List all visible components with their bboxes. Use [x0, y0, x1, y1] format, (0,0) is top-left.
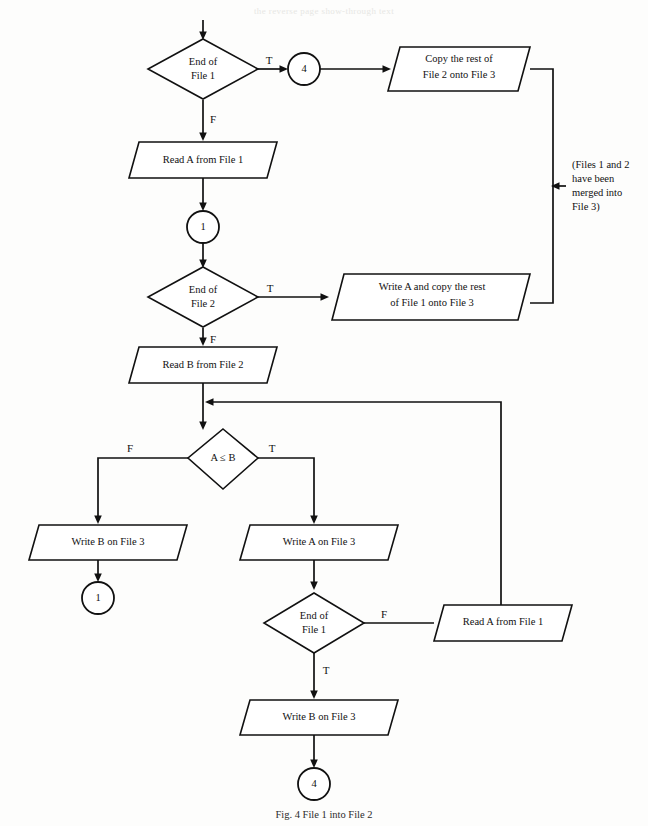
io-copy-rest-of-file-2[interactable]: Copy the rest of File 2 onto File 3 — [388, 47, 530, 91]
annotation-line2: have been — [572, 173, 615, 184]
annotation-files-merged: (Files 1 and 2 have been merged into Fil… — [572, 159, 629, 213]
annotation-line1: (Files 1 and 2 — [572, 159, 629, 171]
arrowhead-to-copy-rest — [383, 65, 392, 73]
io-write-a-copy-line2: of File 1 onto File 3 — [390, 297, 474, 308]
io-write-a-label: Write A on File 3 — [283, 536, 356, 547]
decision-end-of-file-1-top-line2: File 1 — [191, 70, 215, 81]
connector-1-bottom-label: 1 — [95, 592, 100, 603]
branch-label-end-file1-top-true: T — [266, 54, 273, 66]
branch-label-end-file2-false: F — [210, 333, 216, 345]
decision-end-of-file-2[interactable]: End of File 2 — [148, 267, 258, 327]
arrowhead-to-write-a-copy — [321, 293, 330, 301]
io-read-a-bottom-label: Read A from File 1 — [463, 616, 544, 627]
io-write-a-and-copy-rest[interactable]: Write A and copy the rest of File 1 onto… — [332, 274, 530, 320]
line-feedback-rail — [212, 402, 501, 605]
page-bleed-through: the reverse page show-through text — [254, 6, 394, 16]
io-read-b-label: Read B from File 2 — [162, 359, 243, 370]
annotation-line4: File 3) — [572, 201, 600, 213]
arrowhead-to-conn1-bottom — [94, 574, 102, 583]
arrowhead-to-read-b — [199, 338, 207, 347]
connector-4-bottom[interactable]: 4 — [298, 768, 330, 800]
io-write-b-on-file-3-bottom[interactable]: Write B on File 3 — [240, 700, 398, 735]
arrowhead-to-write-b-bottom — [310, 691, 318, 700]
connector-4-bottom-label: 4 — [311, 778, 317, 789]
io-read-a-from-file-1-bottom[interactable]: Read A from File 1 — [434, 605, 572, 641]
connector-4-top[interactable]: 4 — [288, 53, 320, 85]
line-a-le-b-false — [98, 458, 188, 518]
connector-lines — [94, 20, 566, 768]
connector-1-bottom-left[interactable]: 1 — [82, 582, 114, 614]
arrowhead-to-end-file1-bottom — [310, 582, 318, 591]
flowchart-page: the reverse page show-through text — [0, 0, 648, 826]
arrowhead-to-conn1 — [199, 203, 207, 212]
io-copy-rest-line1: Copy the rest of — [425, 53, 493, 64]
line-a-le-b-true — [258, 458, 314, 518]
decision-end-of-file-2-line1: End of — [189, 284, 218, 295]
arrowhead-a-le-b-false — [94, 516, 102, 525]
io-read-a-from-file-1-top[interactable]: Read A from File 1 — [129, 142, 277, 178]
io-write-a-copy-line1: Write A and copy the rest — [379, 281, 486, 292]
line-right-merge-rail — [530, 69, 553, 303]
arrowhead-a-le-b-true — [310, 516, 318, 525]
decision-end-of-file-1-top[interactable]: End of File 1 — [148, 39, 258, 99]
decision-a-le-b-label: A ≤ B — [210, 452, 235, 463]
io-write-b-left-label: Write B on File 3 — [71, 536, 144, 547]
io-write-b-bottom-label: Write B on File 3 — [282, 711, 355, 722]
io-read-b-from-file-2[interactable]: Read B from File 2 — [129, 347, 277, 383]
branch-label-end-file1-bottom-true: T — [323, 664, 330, 676]
arrowhead-to-read-a-top — [199, 133, 207, 142]
arrowhead-to-conn4 — [280, 65, 289, 73]
io-write-a-on-file-3[interactable]: Write A on File 3 — [240, 525, 398, 560]
branch-label-a-le-b-true: T — [269, 442, 276, 454]
decision-end-of-file-1-bottom-line2: File 1 — [302, 624, 326, 635]
io-read-a-top-label: Read A from File 1 — [163, 154, 244, 165]
branch-label-end-file1-top-false: F — [210, 113, 216, 125]
connector-4-top-label: 4 — [301, 63, 307, 74]
branch-label-a-le-b-false: F — [127, 442, 133, 454]
branch-label-end-file1-bottom-false: F — [381, 608, 387, 620]
decision-shape — [264, 593, 364, 653]
io-copy-rest-line2: File 2 onto File 3 — [423, 69, 495, 80]
decision-end-of-file-1-bottom[interactable]: End of File 1 — [264, 593, 364, 653]
decision-end-of-file-1-bottom-line1: End of — [300, 610, 329, 621]
annotation-line3: merged into — [572, 187, 622, 198]
connector-1-middle-label: 1 — [200, 221, 205, 232]
arrowhead-to-a-le-b — [199, 422, 207, 431]
figure-caption: Fig. 4 File 1 into File 2 — [275, 809, 372, 820]
flowchart-canvas: the reverse page show-through text — [0, 0, 648, 826]
decision-a-le-b[interactable]: A ≤ B — [188, 429, 258, 489]
decision-shape — [148, 39, 258, 99]
arrowhead-feedback — [205, 398, 214, 406]
io-write-b-on-file-3-left[interactable]: Write B on File 3 — [29, 525, 187, 560]
decision-end-of-file-2-line2: File 2 — [191, 298, 215, 309]
arrowhead-to-conn4-bottom — [310, 760, 318, 769]
connector-1-middle[interactable]: 1 — [187, 211, 219, 243]
decision-shape — [148, 267, 258, 327]
branch-label-end-file2-true: T — [267, 282, 274, 294]
decision-end-of-file-1-top-line1: End of — [189, 56, 218, 67]
